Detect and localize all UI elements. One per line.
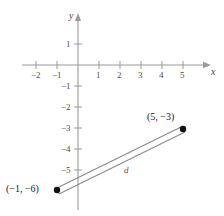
point-a-label: (−1, −6) <box>6 184 39 194</box>
y-tick-label-1: 1 <box>66 40 71 49</box>
x-tick-label-1: 1 <box>96 71 101 80</box>
y-tick-label-minus4: −4 <box>61 145 71 154</box>
y-tick-label-minus2: −2 <box>61 103 71 112</box>
x-tick-label-5: 5 <box>180 71 185 80</box>
point-b-label: (5, −3) <box>147 112 174 122</box>
point-b-dot <box>180 126 186 132</box>
y-tick-label-minus3: −3 <box>61 124 71 133</box>
x-tick-label-2: 2 <box>117 71 122 80</box>
y-axis <box>75 13 81 210</box>
point-a-dot <box>54 187 60 193</box>
y-axis-label: y <box>69 11 73 21</box>
y-tick-label-minus1: −1 <box>61 82 71 91</box>
x-tick-label-minus1: −1 <box>52 71 62 80</box>
x-tick-label-minus2: −2 <box>31 71 41 80</box>
coordinate-plane-figure: −2 −1 1 2 3 4 5 1 −1 −2 −3 −4 −5 y x (−1… <box>0 0 224 216</box>
distance-label: d <box>124 166 129 175</box>
y-tick-label-minus5: −5 <box>61 166 71 175</box>
x-tick-label-3: 3 <box>138 71 143 80</box>
x-axis-label: x <box>211 67 215 77</box>
distance-segment <box>57 126 185 194</box>
x-tick-label-4: 4 <box>159 71 164 80</box>
